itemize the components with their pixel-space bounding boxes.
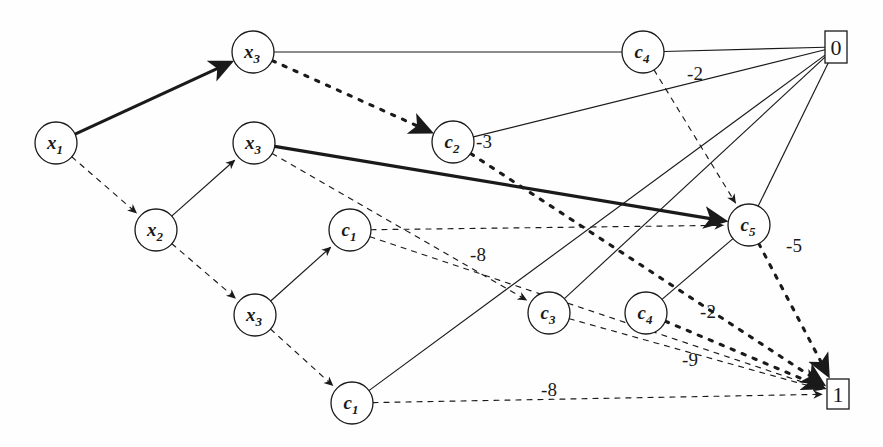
node-layer: x3x1x3x2x3c1c1c2c3c4c4c501	[35, 31, 849, 424]
graph-edge	[271, 247, 331, 301]
graph-node[interactable]: c2	[432, 121, 474, 163]
edge-weight-label: -8	[470, 244, 486, 265]
graph-node[interactable]: x3	[233, 122, 275, 164]
edge-layer	[72, 47, 828, 402]
graph-node[interactable]: 0	[825, 31, 847, 63]
node-label-subscript: 4	[642, 51, 650, 66]
graph-node[interactable]: x3	[232, 31, 274, 73]
graph-edge	[272, 154, 526, 301]
edge-weight-label: -8	[541, 379, 557, 400]
node-label-subscript: 3	[548, 312, 556, 327]
graph-edge	[758, 63, 828, 206]
graph-edge	[564, 57, 825, 299]
graph-edge	[275, 146, 723, 220]
graph-edge	[370, 237, 822, 389]
graph-node[interactable]: x2	[135, 209, 177, 251]
graph-edge	[371, 225, 723, 229]
diagram-canvas: x3x1x3x2x3c1c1c2c3c4c4c501 -2-3-5-8-2-9-…	[0, 0, 883, 447]
graph-edge	[471, 154, 821, 383]
graph-edge	[172, 244, 235, 298]
graph-node[interactable]: x1	[35, 122, 77, 164]
graph-node[interactable]: x3	[234, 294, 276, 336]
node-label-subscript: 4	[645, 312, 653, 327]
graph-edge	[373, 394, 822, 402]
edge-weight-label: -2	[700, 301, 716, 322]
graph-node[interactable]: c3	[528, 292, 570, 334]
node-label-subscript: 3	[254, 142, 262, 157]
graph-edge	[172, 160, 235, 216]
graph-node[interactable]: c4	[622, 31, 664, 73]
node-label-subscript: 1	[350, 229, 357, 244]
graph-edge	[72, 157, 137, 213]
node-label-subscript: 3	[253, 51, 261, 66]
graph-node[interactable]: c1	[331, 382, 373, 424]
graph-node[interactable]: c1	[329, 209, 371, 251]
graph-edge	[662, 239, 733, 300]
node-label-subscript: 5	[749, 224, 756, 239]
node-label-subscript: 2	[156, 229, 164, 244]
graph-edge	[272, 61, 428, 131]
graph-node[interactable]: c4	[625, 292, 667, 334]
node-label-subscript: 1	[57, 142, 64, 157]
graph-svg: x3x1x3x2x3c1c1c2c3c4c4c501 -2-3-5-8-2-9-…	[0, 0, 883, 447]
graph-edge	[664, 47, 825, 51]
node-label-subscript: 2	[452, 141, 460, 156]
graph-edge	[654, 70, 735, 203]
edge-weight-label: -5	[786, 235, 802, 256]
graph-node[interactable]: c5	[728, 204, 770, 246]
graph-node[interactable]: 1	[827, 379, 849, 409]
edge-weight-label: -2	[687, 63, 703, 84]
graph-edge	[75, 63, 228, 134]
edge-weight-label: -9	[682, 349, 698, 370]
node-label-subscript: 1	[352, 402, 359, 417]
terminal-label: 0	[831, 35, 842, 60]
edge-weight-label: -3	[476, 131, 492, 152]
graph-edge	[759, 244, 827, 373]
graph-edge	[271, 329, 333, 385]
terminal-label: 1	[833, 382, 844, 407]
node-label-subscript: 3	[255, 314, 263, 329]
